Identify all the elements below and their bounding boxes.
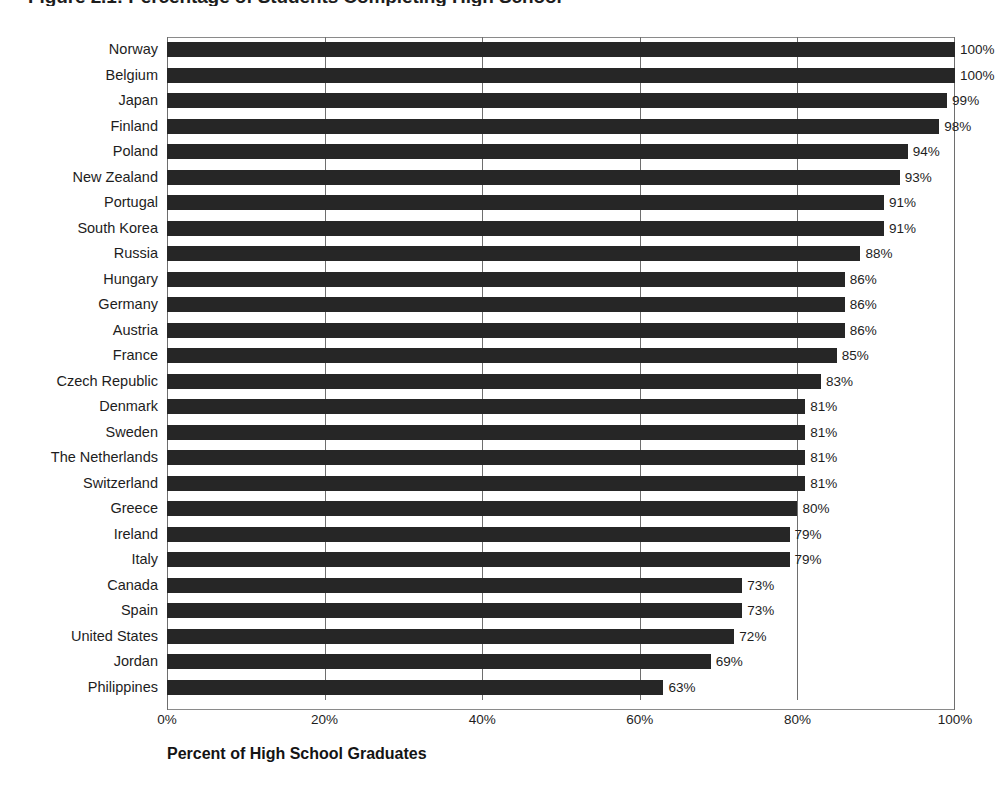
category-label: Japan bbox=[0, 88, 158, 114]
bar-value-label: 100% bbox=[955, 42, 995, 57]
category-label: Philippines bbox=[0, 675, 158, 701]
bar bbox=[167, 374, 821, 389]
category-label: Italy bbox=[0, 547, 158, 573]
bar-value-label: 86% bbox=[845, 272, 877, 287]
bar-row: Hungary86% bbox=[0, 267, 1005, 293]
bar bbox=[167, 476, 805, 491]
bar-row: Ireland79% bbox=[0, 522, 1005, 548]
bar bbox=[167, 144, 908, 159]
bar-row: Spain73% bbox=[0, 598, 1005, 624]
x-axis-ticks: 0%20%40%60%80%100% bbox=[0, 712, 1005, 734]
category-label: The Netherlands bbox=[0, 445, 158, 471]
bar-row: Norway100% bbox=[0, 37, 1005, 63]
bar-row: United States72% bbox=[0, 624, 1005, 650]
bar-rows: Norway100%Belgium100%Japan99%Finland98%P… bbox=[0, 37, 1005, 710]
bar bbox=[167, 680, 663, 695]
bar-value-label: 88% bbox=[860, 246, 892, 261]
bar-row: Finland98% bbox=[0, 114, 1005, 140]
category-label: Czech Republic bbox=[0, 369, 158, 395]
bar-row: Italy79% bbox=[0, 547, 1005, 573]
bar bbox=[167, 552, 790, 567]
bar bbox=[167, 68, 955, 83]
bar bbox=[167, 195, 884, 210]
x-tick-label: 20% bbox=[285, 712, 365, 727]
category-label: Germany bbox=[0, 292, 158, 318]
bar bbox=[167, 246, 860, 261]
x-tick-label: 0% bbox=[127, 712, 207, 727]
bar-row: Sweden81% bbox=[0, 420, 1005, 446]
bar-value-label: 94% bbox=[908, 144, 940, 159]
bar-value-label: 63% bbox=[663, 680, 695, 695]
bar-value-label: 73% bbox=[742, 603, 774, 618]
bar-row: Canada73% bbox=[0, 573, 1005, 599]
bar bbox=[167, 654, 711, 669]
bar-value-label: 91% bbox=[884, 195, 916, 210]
category-label: France bbox=[0, 343, 158, 369]
bar bbox=[167, 527, 790, 542]
bar-value-label: 69% bbox=[711, 654, 743, 669]
bar bbox=[167, 221, 884, 236]
bar-value-label: 100% bbox=[955, 68, 995, 83]
category-label: Canada bbox=[0, 573, 158, 599]
bar-row: Poland94% bbox=[0, 139, 1005, 165]
category-label: Poland bbox=[0, 139, 158, 165]
category-label: Finland bbox=[0, 114, 158, 140]
bar bbox=[167, 501, 797, 516]
bar bbox=[167, 450, 805, 465]
category-label: Sweden bbox=[0, 420, 158, 446]
bar-value-label: 80% bbox=[797, 501, 829, 516]
bar bbox=[167, 323, 845, 338]
bar-row: Austria86% bbox=[0, 318, 1005, 344]
x-tick-label: 100% bbox=[915, 712, 995, 727]
x-tick-label: 60% bbox=[600, 712, 680, 727]
category-label: Denmark bbox=[0, 394, 158, 420]
category-label: Ireland bbox=[0, 522, 158, 548]
bar-value-label: 81% bbox=[805, 425, 837, 440]
bar bbox=[167, 348, 837, 363]
bar-row: Greece80% bbox=[0, 496, 1005, 522]
category-label: Russia bbox=[0, 241, 158, 267]
bar-value-label: 86% bbox=[845, 297, 877, 312]
bar-row: France85% bbox=[0, 343, 1005, 369]
bar bbox=[167, 425, 805, 440]
bar bbox=[167, 629, 734, 644]
category-label: Hungary bbox=[0, 267, 158, 293]
bar-value-label: 99% bbox=[947, 93, 979, 108]
bar-value-label: 81% bbox=[805, 476, 837, 491]
category-label: Switzerland bbox=[0, 471, 158, 497]
bar-row: Philippines63% bbox=[0, 675, 1005, 701]
category-label: Greece bbox=[0, 496, 158, 522]
x-axis-title: Percent of High School Graduates bbox=[167, 745, 427, 763]
bar-row: Switzerland81% bbox=[0, 471, 1005, 497]
bar-row: Japan99% bbox=[0, 88, 1005, 114]
bar-value-label: 93% bbox=[900, 170, 932, 185]
category-label: Austria bbox=[0, 318, 158, 344]
category-label: United States bbox=[0, 624, 158, 650]
category-label: New Zealand bbox=[0, 165, 158, 191]
bar bbox=[167, 603, 742, 618]
bar bbox=[167, 42, 955, 57]
category-label: Portugal bbox=[0, 190, 158, 216]
bar-value-label: 73% bbox=[742, 578, 774, 593]
category-label: Norway bbox=[0, 37, 158, 63]
bar bbox=[167, 297, 845, 312]
bar bbox=[167, 399, 805, 414]
bar-row: Jordan69% bbox=[0, 649, 1005, 675]
bar-value-label: 86% bbox=[845, 323, 877, 338]
category-label: Jordan bbox=[0, 649, 158, 675]
bar bbox=[167, 93, 947, 108]
bar-value-label: 81% bbox=[805, 399, 837, 414]
bar-row: Germany86% bbox=[0, 292, 1005, 318]
bar-row: Belgium100% bbox=[0, 63, 1005, 89]
category-label: Spain bbox=[0, 598, 158, 624]
category-label: Belgium bbox=[0, 63, 158, 89]
bar-row: Denmark81% bbox=[0, 394, 1005, 420]
bar-row: New Zealand93% bbox=[0, 165, 1005, 191]
bar-row: The Netherlands81% bbox=[0, 445, 1005, 471]
bar-value-label: 79% bbox=[790, 527, 822, 542]
bar-row: Portugal91% bbox=[0, 190, 1005, 216]
chart-title: Figure 2.1: Percentage of Students Compl… bbox=[28, 0, 978, 6]
bar-row: South Korea91% bbox=[0, 216, 1005, 242]
bar-value-label: 81% bbox=[805, 450, 837, 465]
bar bbox=[167, 272, 845, 287]
